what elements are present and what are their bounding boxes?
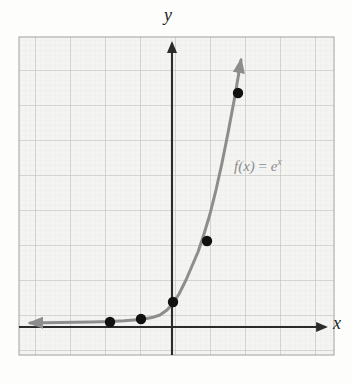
point-1 bbox=[105, 317, 115, 327]
graph-figure: y x f(x) = ex bbox=[0, 0, 352, 383]
x-axis-label: x bbox=[333, 314, 341, 332]
y-axis-label: y bbox=[164, 6, 172, 24]
point-4 bbox=[202, 236, 212, 246]
grid-area bbox=[19, 37, 334, 355]
function-label-equals: = bbox=[255, 158, 271, 174]
point-2 bbox=[136, 314, 146, 324]
graph-canvas bbox=[0, 0, 352, 383]
function-label-fx: f(x) bbox=[234, 158, 255, 174]
point-5 bbox=[233, 88, 243, 98]
point-3 bbox=[168, 297, 178, 307]
grid-lines bbox=[19, 37, 334, 355]
function-label-exponent: x bbox=[277, 157, 281, 167]
function-label: f(x) = ex bbox=[234, 158, 282, 174]
